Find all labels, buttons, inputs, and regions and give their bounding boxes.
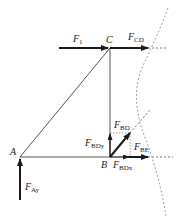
label-fbdx: FBDx	[112, 159, 133, 172]
force-fbd-arrow	[110, 133, 130, 157]
label-fay: FAy	[24, 181, 40, 194]
node-label-c: C	[106, 34, 113, 45]
truss-free-body-diagram: C A B F1 FCD FAy FBD FBDy FBDx FBE	[0, 0, 178, 223]
label-fbd: FBD	[113, 119, 130, 132]
member-ac	[20, 48, 110, 157]
node-label-a: A	[9, 146, 17, 157]
label-fcd: FCD	[127, 31, 144, 44]
label-fbe: FBE	[133, 141, 149, 154]
label-f1: F1	[72, 33, 83, 46]
label-fbdy: FBDy	[84, 137, 105, 150]
node-label-b: B	[101, 159, 107, 170]
